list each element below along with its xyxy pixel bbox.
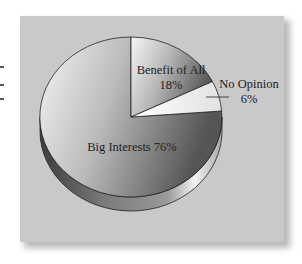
label-benefit-of-all-name: Benefit of All	[136, 63, 206, 78]
label-big-interests: Big Interests 76%	[84, 140, 180, 155]
label-no-opinion: No Opinion 6%	[214, 77, 284, 107]
label-benefit-of-all-value: 18%	[136, 78, 206, 93]
label-no-opinion-value: 6%	[214, 92, 284, 107]
label-no-opinion-name: No Opinion	[214, 77, 284, 92]
pie-chart	[0, 0, 302, 264]
label-benefit-of-all: Benefit of All 18%	[136, 63, 206, 93]
